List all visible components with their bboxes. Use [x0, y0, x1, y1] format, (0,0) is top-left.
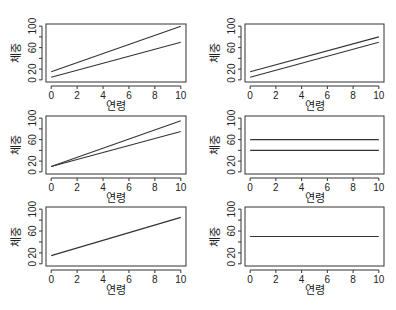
x-tick-label: 10	[175, 90, 187, 101]
x-tick-label: 6	[325, 90, 331, 101]
y-tick-label: 60	[27, 225, 38, 237]
panel-3: 0246810연령02060100체중	[10, 109, 187, 205]
panel-6: 0246810연령02060100체중	[209, 200, 385, 297]
x-tick-label: 2	[74, 274, 80, 285]
y-tick-label: 60	[226, 225, 237, 237]
series-line	[250, 37, 379, 72]
panel-4: 0246810연령02060100체중	[209, 109, 385, 205]
y-tick-label: 100	[226, 200, 237, 217]
series-line	[51, 132, 181, 167]
x-tick-label: 8	[350, 274, 356, 285]
x-tick-label: 10	[175, 182, 187, 193]
y-tick-label: 20	[226, 63, 237, 75]
y-tick-label: 0	[27, 169, 38, 175]
y-tick-label: 100	[226, 17, 237, 34]
y-tick-label: 100	[27, 17, 38, 34]
panel-5: 0246810연령02060100체중	[10, 200, 187, 297]
y-tick-label: 0	[27, 261, 38, 267]
x-tick-label: 2	[74, 182, 80, 193]
x-tick-label: 0	[247, 182, 253, 193]
x-tick-label: 2	[273, 90, 279, 101]
x-tick-label: 6	[126, 90, 132, 101]
series-line	[51, 217, 181, 255]
plot-box	[46, 116, 186, 174]
y-tick-label: 60	[226, 42, 237, 54]
x-tick-label: 6	[126, 182, 132, 193]
x-tick-label: 2	[273, 182, 279, 193]
series-line	[51, 42, 181, 77]
panel-1: 0246810연령02060100체중	[10, 17, 187, 113]
y-tick-label: 0	[226, 261, 237, 267]
x-axis-label: 연령	[305, 100, 325, 113]
y-tick-label: 60	[226, 134, 237, 146]
y-tick-label: 60	[27, 134, 38, 146]
x-tick-label: 10	[373, 182, 385, 193]
series-line	[51, 26, 181, 72]
y-axis-label: 체중	[209, 135, 222, 155]
chart-figure: 0246810연령02060100체중0246810연령02060100체중02…	[0, 0, 396, 310]
x-tick-label: 0	[48, 90, 54, 101]
x-tick-label: 6	[325, 274, 331, 285]
plot-box	[245, 116, 384, 174]
y-tick-label: 0	[226, 77, 237, 83]
x-tick-label: 8	[152, 182, 158, 193]
panel-2: 0246810연령02060100체중	[209, 17, 385, 113]
y-tick-label: 20	[226, 155, 237, 167]
y-tick-label: 100	[27, 200, 38, 217]
y-tick-label: 20	[27, 63, 38, 75]
y-axis-label: 체중	[10, 43, 23, 63]
y-tick-label: 0	[226, 169, 237, 175]
x-tick-label: 0	[48, 274, 54, 285]
x-tick-label: 0	[247, 90, 253, 101]
x-tick-label: 8	[152, 274, 158, 285]
y-tick-label: 100	[27, 109, 38, 126]
x-axis-label: 연령	[106, 100, 126, 113]
y-tick-label: 20	[27, 247, 38, 259]
x-tick-label: 2	[74, 90, 80, 101]
y-tick-label: 20	[226, 247, 237, 259]
x-tick-label: 2	[273, 274, 279, 285]
y-tick-label: 20	[27, 155, 38, 167]
x-tick-label: 10	[373, 274, 385, 285]
x-tick-label: 6	[126, 274, 132, 285]
series-line	[250, 42, 379, 77]
x-tick-label: 6	[325, 182, 331, 193]
y-axis-label: 체중	[10, 135, 23, 155]
x-axis-label: 연령	[106, 284, 126, 297]
y-tick-label: 100	[226, 109, 237, 126]
x-tick-label: 10	[175, 274, 187, 285]
y-axis-label: 체중	[209, 43, 222, 63]
series-line	[51, 121, 181, 167]
x-axis-label: 연령	[305, 284, 325, 297]
x-tick-label: 0	[48, 182, 54, 193]
x-axis-label: 연령	[106, 192, 126, 205]
y-axis-label: 체중	[209, 227, 222, 247]
x-axis-label: 연령	[305, 192, 325, 205]
x-tick-label: 10	[373, 90, 385, 101]
y-tick-label: 60	[27, 42, 38, 54]
y-axis-label: 체중	[10, 227, 23, 247]
x-tick-label: 0	[247, 274, 253, 285]
x-tick-label: 8	[350, 182, 356, 193]
y-tick-label: 0	[27, 77, 38, 83]
x-tick-label: 8	[152, 90, 158, 101]
x-tick-label: 8	[350, 90, 356, 101]
